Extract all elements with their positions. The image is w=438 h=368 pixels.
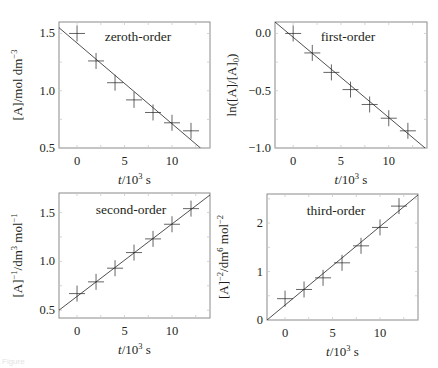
plot-title: first-order	[321, 29, 376, 44]
data-point-marker	[343, 82, 359, 98]
x-tick-label: 0	[74, 154, 80, 168]
y-tick-label: 1.0	[39, 84, 55, 98]
plot-first: 0510−1.0−0.50.0first-ordert/103 sln([A]/…	[224, 22, 427, 187]
x-tick-label: 10	[374, 326, 387, 340]
plot-third: 0510012third-ordert/103 s[A]−2/dm6 mol−2	[215, 194, 418, 359]
plot-title: third-order	[307, 203, 366, 218]
y-tick-label: 0.0	[255, 26, 271, 40]
data-point-marker	[69, 286, 85, 302]
y-tick-label: 0.5	[39, 141, 55, 155]
data-point-marker	[126, 92, 142, 108]
data-point-marker	[107, 75, 123, 91]
x-tick-label: 10	[166, 324, 179, 338]
data-point-marker	[353, 238, 369, 254]
data-point-marker	[296, 281, 312, 297]
data-point-marker	[285, 25, 301, 41]
y-axis-label: [A]−1/dm3 mol−1	[9, 213, 25, 297]
y-tick-label: 2	[257, 216, 263, 230]
x-axis-label: t/103 s	[326, 343, 359, 359]
data-point-marker	[323, 64, 339, 80]
x-axis-label: t/103 s	[335, 171, 368, 187]
x-tick-label: 0	[290, 154, 296, 168]
plot-second: 05100.51.01.5second-ordert/103 s[A]−1/dm…	[9, 193, 210, 357]
data-point-marker	[107, 260, 123, 276]
x-tick-label: 0	[74, 324, 80, 338]
data-point-marker	[277, 291, 293, 307]
data-point-marker	[315, 270, 331, 286]
data-point-marker	[145, 104, 161, 120]
data-point-marker	[391, 198, 407, 214]
data-point-marker	[164, 216, 180, 232]
plot-title: second-order	[96, 202, 167, 217]
plot-title: zeroth-order	[105, 29, 172, 44]
data-point-marker	[88, 274, 104, 290]
y-tick-label: 1.5	[39, 206, 55, 220]
x-tick-label: 0	[282, 326, 288, 340]
y-tick-label: 1.0	[39, 254, 55, 268]
x-axis-label: t/103 s	[118, 171, 151, 187]
data-point-marker	[334, 255, 350, 271]
data-point-marker	[145, 231, 161, 247]
data-point-marker	[69, 25, 85, 41]
y-axis-label: [A]/mol dm−3	[9, 50, 25, 121]
y-tick-label: 1.5	[39, 26, 55, 40]
x-axis-label: t/103 s	[118, 341, 151, 357]
y-axis-label: ln([A]/[A]0)	[224, 54, 241, 117]
plot-zeroth: 05100.51.01.5zeroth-ordert/103 s[A]/mol …	[9, 22, 210, 187]
y-tick-label: −0.5	[248, 84, 271, 98]
data-point-marker	[88, 53, 104, 69]
y-tick-label: 1	[257, 265, 263, 279]
y-axis-label: [A]−2/dm6 mol−2	[215, 215, 231, 299]
kinetics-figure: 05100.51.01.5zeroth-ordert/103 s[A]/mol …	[0, 0, 438, 368]
x-tick-label: 5	[121, 154, 127, 168]
data-point-marker	[126, 245, 142, 261]
y-tick-label: 0	[257, 313, 263, 327]
x-tick-label: 10	[383, 154, 396, 168]
data-point-marker	[400, 123, 416, 139]
data-point-marker	[304, 45, 320, 61]
x-tick-label: 10	[166, 154, 179, 168]
y-tick-label: −1.0	[248, 141, 271, 155]
x-tick-label: 5	[338, 154, 344, 168]
x-tick-label: 5	[329, 326, 335, 340]
y-tick-label: 0.5	[39, 303, 55, 317]
x-tick-label: 5	[121, 324, 127, 338]
fit-line	[59, 28, 201, 148]
data-point-marker	[362, 96, 378, 112]
data-point-marker	[183, 201, 199, 217]
figure-caption-fragment: Figure	[2, 357, 25, 366]
data-point-marker	[183, 123, 199, 139]
